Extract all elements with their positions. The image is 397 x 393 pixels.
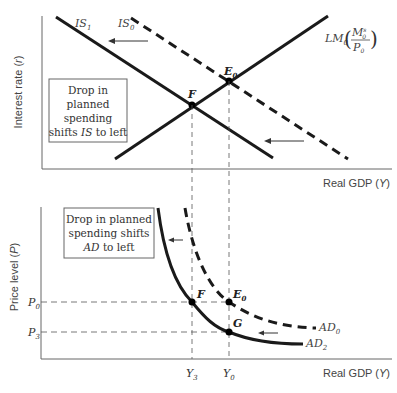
- tick-p3: P3: [27, 326, 40, 341]
- ad0-label: AD0: [318, 321, 341, 336]
- top-y-axis-label: Interest rate (r): [12, 56, 24, 129]
- svg-text:E0: E0: [223, 65, 237, 80]
- ad2-label: AD2: [305, 337, 328, 352]
- is-shift-arrow-lower: [264, 138, 304, 144]
- bottom-x-axis-label: Real GDP (Y): [323, 367, 390, 379]
- is-lm-ad-diagram: Interest rate (r) Real GDP (Y) IS1 IS0 L…: [0, 0, 397, 393]
- top-panel-is-lm: Interest rate (r) Real GDP (Y) IS1 IS0 L…: [12, 16, 392, 189]
- svg-text:AD to left: AD to left: [83, 241, 136, 253]
- svg-text:G: G: [233, 317, 242, 330]
- bottom-point-g: [226, 329, 233, 336]
- svg-text:Drop in: Drop in: [68, 84, 108, 96]
- svg-text:Ms0: Ms0: [351, 26, 366, 40]
- ad2-curve: [158, 208, 303, 344]
- ad0-curve: [185, 208, 316, 328]
- svg-text:spending: spending: [64, 112, 113, 124]
- tick-y0: Y0: [223, 367, 235, 382]
- bottom-point-e0: [226, 299, 233, 306]
- top-x-axis-label: Real GDP (Y): [323, 177, 390, 189]
- svg-text:(: (: [344, 27, 352, 51]
- svg-text:F: F: [187, 88, 197, 101]
- svg-text:P0: P0: [352, 41, 364, 54]
- bottom-y-axis-label: Price level (P): [8, 243, 20, 311]
- is-shift-arrow-upper: [108, 38, 148, 44]
- ad-shift-arrow-upper: [168, 238, 183, 243]
- lm0-curve: [115, 16, 328, 159]
- top-annotation-box: Drop in planned spending shifts IS to le…: [49, 79, 128, 142]
- bottom-point-f: [189, 299, 196, 306]
- svg-text:Drop in planned: Drop in planned: [66, 213, 152, 225]
- bottom-panel-ad: Price level (P) Real GDP (Y) P0 P3 Y3 Y0…: [8, 207, 392, 382]
- bottom-annotation-box: Drop in planned spending shifts AD to le…: [64, 208, 154, 258]
- svg-text:spending shifts: spending shifts: [69, 227, 150, 239]
- svg-text:planned: planned: [67, 98, 110, 110]
- lm0-label: LM0 ( Ms0 P0 ): [324, 26, 378, 54]
- svg-text:shifts IS to left: shifts IS to left: [49, 126, 128, 138]
- ad-shift-arrow-lower: [258, 331, 278, 336]
- tick-y3: Y3: [186, 367, 198, 382]
- svg-text:E0: E0: [232, 288, 246, 303]
- tick-p0: P0: [27, 296, 40, 311]
- is1-label: IS1: [74, 17, 91, 32]
- svg-text:F: F: [196, 288, 206, 301]
- svg-text:): ): [370, 27, 378, 51]
